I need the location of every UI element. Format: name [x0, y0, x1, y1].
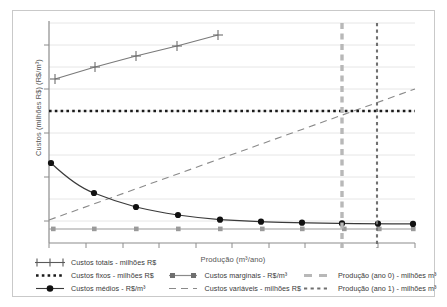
circle-line-marker-icon — [34, 283, 66, 294]
legend-item-producao-ano0[interactable]: Produção (ano 0) - milhões m³ — [301, 269, 431, 282]
legend-item-custos-totais[interactable]: Custos totais - milhões R$ — [34, 256, 167, 269]
plus-line-marker-icon — [34, 257, 66, 268]
legend-item-custos-variaveis[interactable]: Custos variáveis - milhões R$ — [167, 282, 301, 295]
series-custos-totais — [50, 30, 223, 84]
y-axis-title: Custos (milhões R$) (R$/m³) — [34, 38, 43, 178]
chart-frame: Custos (milhões R$) (R$/m³) Produção (m³… — [12, 10, 435, 297]
dotted-dash-marker-icon — [301, 283, 333, 294]
dotted-thick-marker-icon — [34, 270, 66, 281]
series-custos-medios — [48, 160, 416, 227]
dashed-line-marker-icon — [167, 283, 199, 294]
legend-item-producao-ano1[interactable]: Produção (ano 1) - milhões m³ — [301, 282, 431, 295]
horizontal-gridlines — [49, 23, 415, 221]
chart-plot-area — [13, 11, 434, 296]
legend-column-1: Custos totais - milhões R$ Custos fixos … — [34, 256, 167, 295]
legend-label: Custos marginais - R$/m³ — [204, 271, 287, 280]
legend-label: Custos totais - milhões R$ — [71, 258, 156, 267]
chart-legend: Custos totais - milhões R$ Custos fixos … — [16, 256, 431, 298]
series-custos-marginais — [49, 227, 416, 232]
y-axis-ticks — [44, 45, 49, 221]
legend-label: Produção (ano 0) - milhões m³ — [338, 271, 437, 280]
legend-label: Custos médios - R$/m³ — [71, 284, 146, 293]
legend-item-custos-marginais[interactable]: Custos marginais - R$/m³ — [167, 269, 301, 282]
square-line-marker-icon — [167, 270, 199, 281]
legend-item-custos-fixos[interactable]: Custos fixos - milhões R$ — [34, 269, 167, 282]
legend-column-2: Custos marginais - R$/m³ Custos variávei… — [167, 256, 301, 295]
legend-label: Custos variáveis - milhões R$ — [204, 284, 301, 293]
legend-column-3: Produção (ano 0) - milhões m³ Produção (… — [301, 256, 431, 295]
legend-label: Custos fixos - milhões R$ — [71, 271, 154, 280]
legend-item-custos-medios[interactable]: Custos médios - R$/m³ — [34, 282, 167, 295]
chart-figure: Custos (milhões R$) (R$/m³) Produção (m³… — [0, 0, 447, 307]
x-axis-ticks — [49, 243, 415, 248]
legend-label: Produção (ano 1) - milhões m³ — [338, 284, 437, 293]
thick-dash-marker-icon — [301, 270, 333, 281]
